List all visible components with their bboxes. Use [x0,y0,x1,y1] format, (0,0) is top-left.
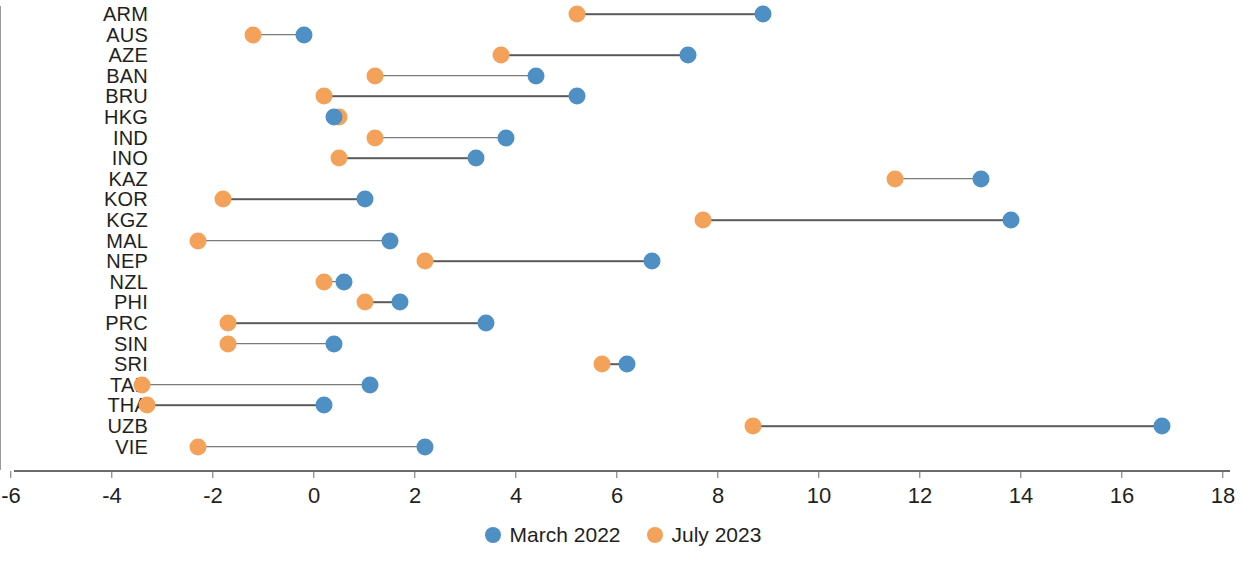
x-axis-tick-label: 12 [908,484,932,508]
data-point-july-2023[interactable] [745,418,762,435]
x-axis-tick [515,471,516,478]
dumbbell-row [0,437,1246,457]
dumbbell-row [0,375,1246,395]
data-point-july-2023[interactable] [593,356,610,373]
data-point-july-2023[interactable] [316,88,333,105]
x-axis-tick [717,471,718,478]
data-point-march-2022[interactable] [1002,212,1019,229]
dumbbell-row [0,354,1246,374]
data-point-march-2022[interactable] [972,170,989,187]
legend-dot-icon [485,527,501,543]
dumbbell-row [0,86,1246,106]
data-point-march-2022[interactable] [326,335,343,352]
data-point-july-2023[interactable] [134,376,151,393]
legend-item[interactable]: March 2022 [485,524,621,545]
data-point-march-2022[interactable] [528,67,545,84]
dumbbell-row [0,169,1246,189]
x-axis-tick-label: 2 [409,484,421,508]
dumbbell-row [0,128,1246,148]
x-axis-tick-label: 8 [712,484,724,508]
data-point-march-2022[interactable] [467,150,484,167]
connector-line [703,219,1011,221]
connector-line [198,446,425,448]
data-point-march-2022[interactable] [679,47,696,64]
data-point-march-2022[interactable] [381,232,398,249]
legend-dot-icon [647,527,663,543]
data-point-july-2023[interactable] [331,150,348,167]
data-point-july-2023[interactable] [220,335,237,352]
data-point-march-2022[interactable] [1154,418,1171,435]
legend-label: March 2022 [510,524,621,545]
data-point-july-2023[interactable] [215,191,232,208]
dumbbell-row [0,25,1246,45]
data-point-march-2022[interactable] [336,273,353,290]
chart-legend: March 2022July 2023 [0,524,1246,545]
x-axis-tick [1222,471,1223,478]
data-point-july-2023[interactable] [366,129,383,146]
x-axis-tick-label: 10 [807,484,831,508]
legend-item[interactable]: July 2023 [647,524,762,545]
data-point-march-2022[interactable] [497,129,514,146]
data-point-march-2022[interactable] [568,88,585,105]
data-point-march-2022[interactable] [417,438,434,455]
data-point-march-2022[interactable] [755,6,772,23]
data-point-july-2023[interactable] [568,6,585,23]
data-point-july-2023[interactable] [316,273,333,290]
data-point-july-2023[interactable] [886,170,903,187]
dumbbell-row [0,45,1246,65]
data-point-july-2023[interactable] [139,397,156,414]
connector-line [753,425,1162,427]
data-point-july-2023[interactable] [417,253,434,270]
data-point-july-2023[interactable] [356,294,373,311]
connector-line [147,405,324,407]
data-point-july-2023[interactable] [245,26,262,43]
data-point-march-2022[interactable] [316,397,333,414]
plot-area: ARMAUSAZEBANBRUHKGINDINOKAZKORKGZMALNEPN… [0,0,1246,480]
x-axis-tick [818,471,819,478]
x-axis-tick-label: 0 [308,484,320,508]
x-axis-tick [212,471,213,478]
connector-line [198,240,390,242]
connector-line [228,322,486,324]
dumbbell-row [0,231,1246,251]
data-point-july-2023[interactable] [220,315,237,332]
data-point-july-2023[interactable] [189,438,206,455]
data-point-march-2022[interactable] [356,191,373,208]
dumbbell-row [0,189,1246,209]
dumbbell-row [0,66,1246,86]
x-axis-tick-label: 4 [510,484,522,508]
data-point-march-2022[interactable] [295,26,312,43]
x-axis-tick-label: 14 [1009,484,1033,508]
data-point-march-2022[interactable] [326,109,343,126]
data-point-july-2023[interactable] [189,232,206,249]
data-point-march-2022[interactable] [361,376,378,393]
data-point-march-2022[interactable] [477,315,494,332]
dumbbell-row [0,148,1246,168]
x-axis-tick [1020,471,1021,478]
connector-line [577,13,764,15]
dumbbell-row [0,251,1246,271]
data-point-july-2023[interactable] [694,212,711,229]
data-point-march-2022[interactable] [391,294,408,311]
dumbbell-row [0,416,1246,436]
x-axis-tick-label: -2 [203,484,223,508]
data-point-july-2023[interactable] [366,67,383,84]
connector-line [142,384,369,386]
x-axis-tick [1121,471,1122,478]
x-axis-tick [414,471,415,478]
chart-root: ARMAUSAZEBANBRUHKGINDINOKAZKORKGZMALNEPN… [0,0,1246,564]
connector-line [375,75,537,77]
data-point-july-2023[interactable] [492,47,509,64]
connector-line [228,343,334,345]
x-axis-tick [111,471,112,478]
dumbbell-row [0,334,1246,354]
connector-line [223,199,364,201]
x-axis-tick-label: -6 [1,484,21,508]
dumbbell-row [0,292,1246,312]
dumbbell-row [0,395,1246,415]
connector-line [324,96,577,98]
data-point-march-2022[interactable] [644,253,661,270]
connector-line [501,54,688,56]
data-point-march-2022[interactable] [619,356,636,373]
legend-label: July 2023 [672,524,762,545]
